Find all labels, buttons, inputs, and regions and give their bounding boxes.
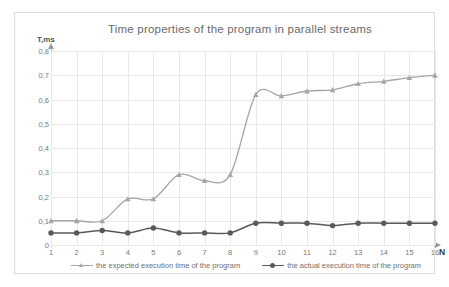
x-axis-tick-label: 3: [91, 248, 113, 257]
x-axis-tick-label: 8: [219, 248, 241, 257]
data-point-marker: [228, 230, 233, 235]
y-axis-tick-label: 0,8: [33, 47, 49, 56]
data-point-marker: [100, 228, 105, 233]
series-line-actual: [51, 222, 435, 233]
data-point-marker: [253, 220, 258, 225]
chart-legend: the expected execution time of the progr…: [51, 261, 441, 270]
page-title: Time properties of the program in parall…: [70, 23, 410, 35]
legend-item-expected[interactable]: the expected execution time of the progr…: [71, 261, 240, 270]
y-axis-tick-label: 0,5: [33, 119, 49, 128]
legend-label: the actual execution time of the program: [287, 261, 421, 270]
x-axis-tick-labels: 12345678910111213141516: [51, 248, 435, 260]
data-point-marker: [125, 230, 130, 235]
gridline-horizontal: [51, 245, 435, 246]
series-line-expected: [51, 75, 435, 222]
data-point-marker: [227, 172, 233, 177]
data-point-marker: [202, 230, 207, 235]
chart-frame: Time properties of the program in parall…: [14, 12, 435, 274]
data-point-marker: [74, 230, 79, 235]
x-axis-tick-label: 9: [245, 248, 267, 257]
y-axis-tick-label: 0,6: [33, 95, 49, 104]
y-axis-tick-labels: 00,10,20,30,40,50,60,70,8: [29, 51, 49, 245]
legend-label: the expected execution time of the progr…: [96, 261, 240, 270]
data-point-marker: [356, 220, 361, 225]
x-axis-tick-label: 11: [296, 248, 318, 257]
x-axis-tick-label: 12: [322, 248, 344, 257]
data-point-marker: [330, 223, 335, 228]
data-point-marker: [407, 220, 412, 225]
x-axis-tick-label: 5: [142, 248, 164, 257]
data-point-marker: [48, 230, 53, 235]
data-point-marker: [432, 220, 437, 225]
data-point-marker: [304, 220, 309, 225]
x-axis-name-label: N: [439, 247, 445, 257]
y-axis-tick-label: 0,7: [33, 71, 49, 80]
x-axis-tick-label: 13: [347, 248, 369, 257]
y-axis-tick-label: 0,4: [33, 144, 49, 153]
data-point-marker: [279, 220, 284, 225]
x-axis-tick-label: 4: [117, 248, 139, 257]
legend-swatch-icon: [71, 262, 93, 269]
data-point-marker: [151, 225, 156, 230]
x-axis-tick-label: 14: [373, 248, 395, 257]
x-axis-tick-label: 7: [194, 248, 216, 257]
x-axis-tick-label: 10: [270, 248, 292, 257]
y-axis-tick-label: 0,3: [33, 168, 49, 177]
legend-item-actual[interactable]: the actual execution time of the program: [262, 261, 421, 270]
data-point-marker: [381, 220, 386, 225]
gridline-vertical: [435, 51, 436, 245]
x-axis-tick-label: 15: [398, 248, 420, 257]
x-axis-tick-label: 2: [66, 248, 88, 257]
y-axis-tick-label: 0,2: [33, 192, 49, 201]
plot-area: [51, 51, 435, 245]
x-axis-tick-label: 6: [168, 248, 190, 257]
data-point-marker: [176, 230, 181, 235]
legend-swatch-icon: [262, 262, 284, 269]
y-axis-tick-label: 0,1: [33, 216, 49, 225]
series-layer: [51, 51, 435, 245]
x-axis-tick-label: 1: [40, 248, 62, 257]
data-point-marker: [99, 218, 105, 223]
